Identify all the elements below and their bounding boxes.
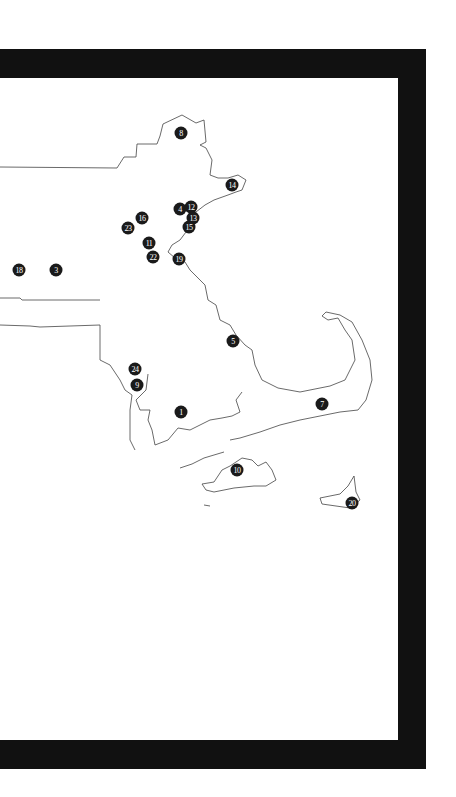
map-marker: 15 xyxy=(183,221,196,234)
map-marker: 24 xyxy=(129,363,142,376)
map-marker: 14 xyxy=(226,179,239,192)
map-marker: 10 xyxy=(231,464,244,477)
map-marker: 19 xyxy=(173,253,186,266)
map-marker: 8 xyxy=(175,127,188,140)
map-marker: 3 xyxy=(50,264,63,277)
map-outline xyxy=(0,0,456,797)
map-marker: 16 xyxy=(136,212,149,225)
map-marker: 22 xyxy=(147,251,160,264)
map-marker: 18 xyxy=(13,264,26,277)
map-marker: 5 xyxy=(227,335,240,348)
map-marker: 23 xyxy=(122,222,135,235)
map-marker: 20 xyxy=(346,497,359,510)
map-marker: 9 xyxy=(131,379,144,392)
map-marker: 11 xyxy=(143,237,156,250)
map-marker: 7 xyxy=(316,398,329,411)
map-marker: 1 xyxy=(175,406,188,419)
